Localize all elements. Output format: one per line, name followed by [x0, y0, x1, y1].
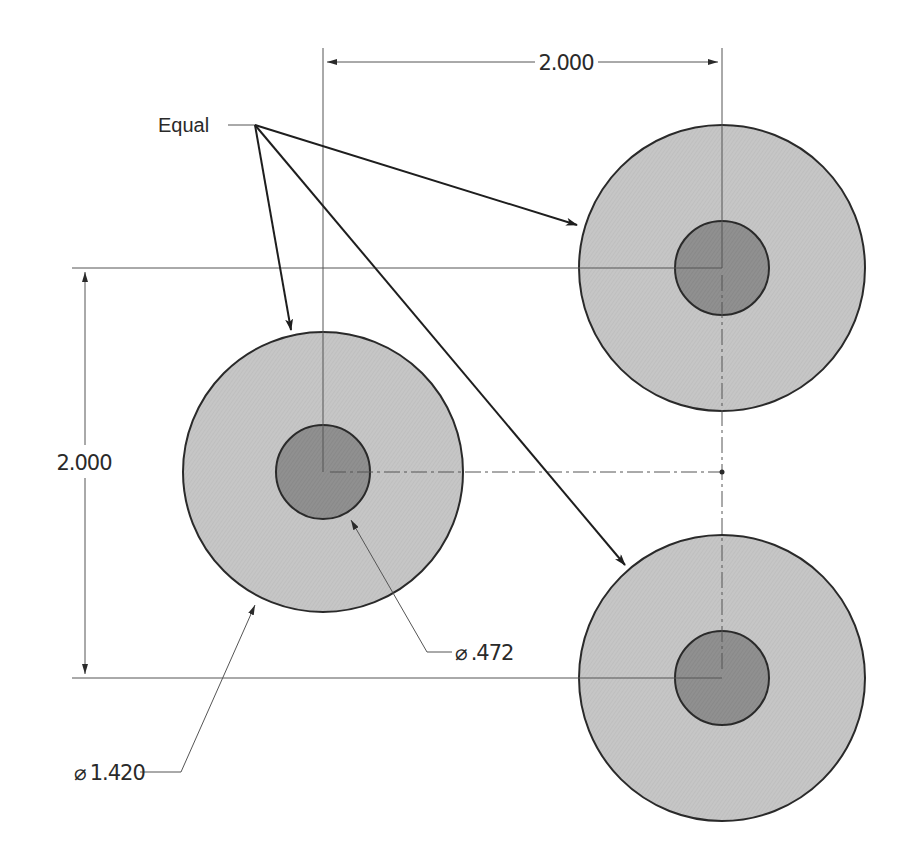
svg-text:⌀1.420: ⌀1.420 — [74, 761, 145, 785]
dimension-vertical[interactable]: 2.000 — [56, 272, 111, 674]
equal-leader-top-right — [255, 125, 577, 225]
dimension-inner-diameter-value[interactable]: .472 — [471, 641, 514, 665]
centerline-intersection-point[interactable] — [720, 470, 725, 475]
dimension-outer-diameter[interactable]: ⌀1.420 — [74, 605, 255, 785]
dimension-horizontal-value[interactable]: 2.000 — [538, 51, 593, 75]
dimension-outer-diameter-value[interactable]: 1.420 — [90, 761, 145, 785]
dimension-horizontal[interactable]: 2.000 — [327, 51, 718, 75]
dimension-vertical-value[interactable]: 2.000 — [56, 451, 111, 475]
svg-text:⌀.472: ⌀.472 — [455, 641, 513, 665]
sketch-canvas: 2.000 2.000 Equal ⌀1.420 ⌀.472 — [0, 0, 915, 865]
equal-leader-left — [255, 125, 291, 330]
diameter-symbol-icon: ⌀ — [74, 761, 86, 785]
diameter-symbol-icon: ⌀ — [455, 641, 467, 665]
equal-note-label[interactable]: Equal — [158, 114, 209, 136]
